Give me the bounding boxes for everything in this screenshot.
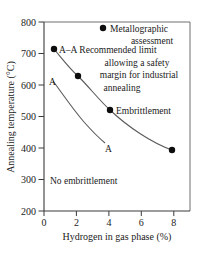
chart-figure: 800 700 600 500 400 300 200 0 2 4 6 8 An… bbox=[0, 0, 201, 254]
legend-marker-icon bbox=[100, 25, 106, 31]
y-axis-title: Annealing temperature (°C) bbox=[5, 61, 17, 173]
chart-canvas: 800 700 600 500 400 300 200 0 2 4 6 8 An… bbox=[0, 0, 201, 254]
data-point-1 bbox=[75, 73, 81, 79]
x-tick-label-8: 8 bbox=[171, 217, 176, 228]
data-point-2 bbox=[107, 107, 113, 113]
x-tick-label-2: 2 bbox=[74, 217, 79, 228]
data-point-3 bbox=[169, 147, 175, 153]
legend-label-line1: Metallographic bbox=[110, 24, 168, 34]
y-tick-label-200: 200 bbox=[21, 206, 36, 217]
curve-label-a-lower: A bbox=[105, 144, 112, 154]
y-tick-label-300: 300 bbox=[21, 174, 36, 185]
x-tick-label-0: 0 bbox=[42, 217, 47, 228]
note-line-4: annealing bbox=[104, 83, 141, 93]
note-line-1: A–A Recommended limit bbox=[59, 45, 157, 55]
x-axis-title: Hydrogen in gas phase (%) bbox=[63, 231, 172, 243]
curve-label-a-upper: A bbox=[49, 77, 56, 87]
note-line-3: margin for industrial bbox=[100, 70, 179, 80]
note-line-2: allowing a safety bbox=[105, 58, 170, 68]
y-tick-label-700: 700 bbox=[21, 48, 36, 59]
y-tick-label-500: 500 bbox=[21, 111, 36, 122]
y-tick-label-400: 400 bbox=[21, 143, 36, 154]
y-tick-label-800: 800 bbox=[21, 17, 36, 28]
region-label-no-embrittlement: No embrittlement bbox=[50, 176, 118, 186]
region-label-embrittlement: Embrittlement bbox=[116, 106, 171, 116]
x-tick-label-6: 6 bbox=[139, 217, 144, 228]
data-point-0 bbox=[51, 46, 57, 52]
x-tick-label-4: 4 bbox=[106, 217, 111, 228]
curve-recommended-limit-aa bbox=[53, 81, 105, 143]
y-tick-label-600: 600 bbox=[21, 80, 36, 91]
